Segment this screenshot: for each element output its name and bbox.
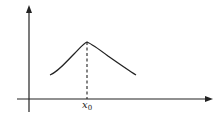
y-axis-arrow-icon [26,5,32,13]
x-axis-arrow-icon [205,96,213,102]
peak-x-label: x0 [82,99,92,112]
diagram-canvas: x0 [0,0,222,121]
diagram-figure: x0 [0,0,222,121]
function-curve [50,42,136,75]
peak-x-label-subscript: 0 [88,104,92,112]
